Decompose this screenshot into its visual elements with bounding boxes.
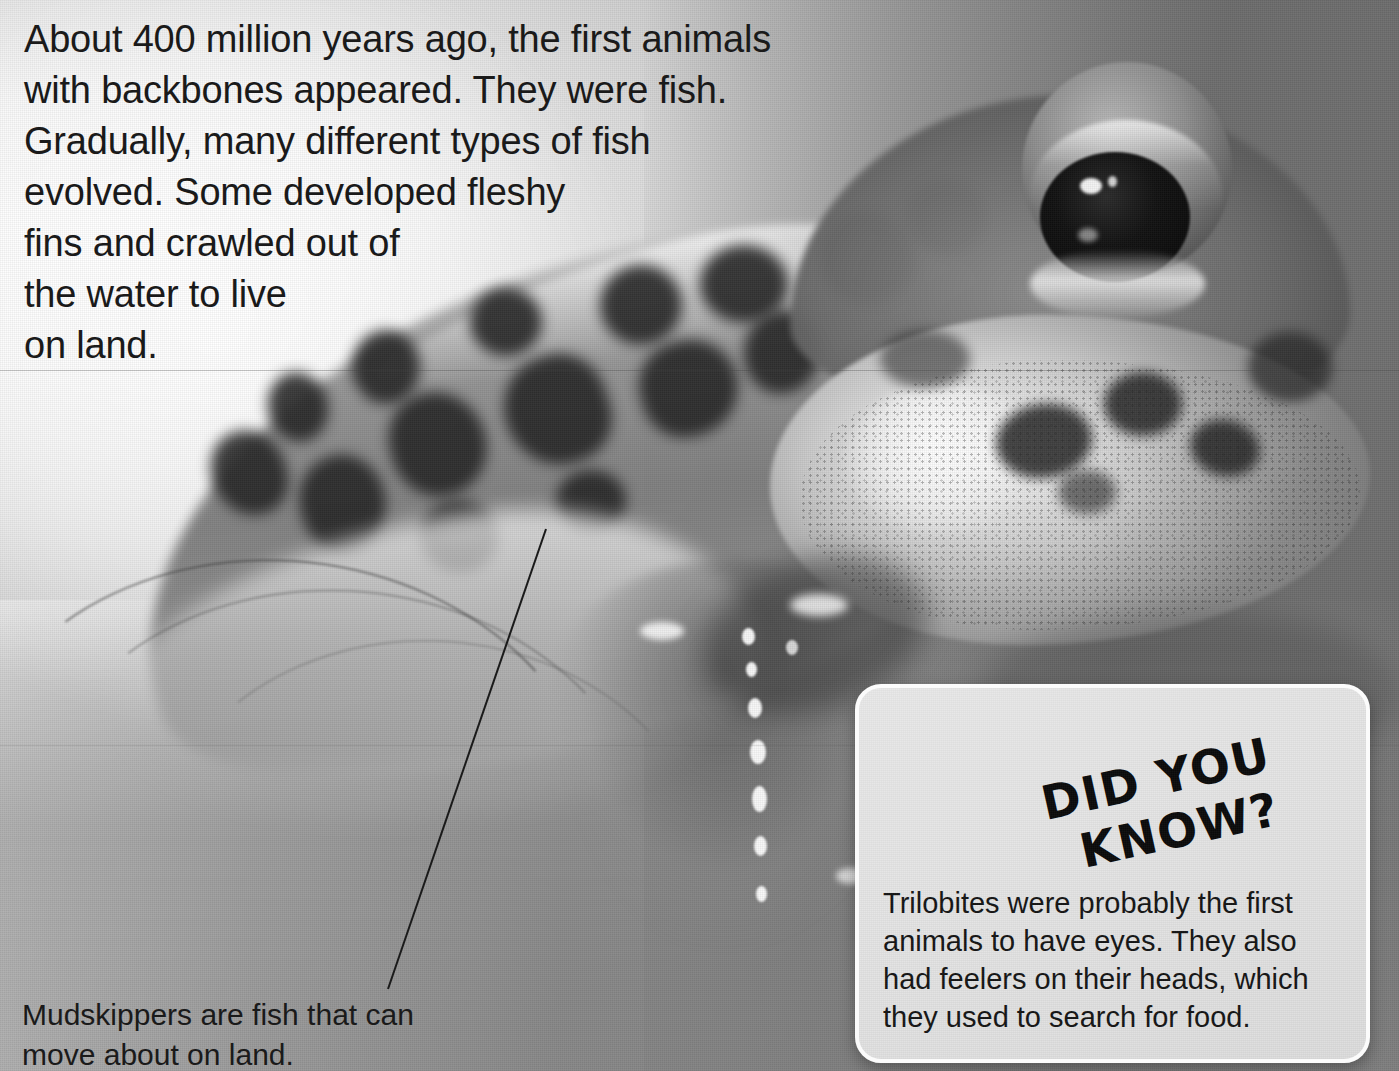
water-droplet (756, 886, 767, 902)
fish-head-blotch (880, 330, 970, 388)
water-droplet (754, 836, 767, 856)
water-droplet (750, 740, 766, 764)
water-droplet (790, 594, 848, 616)
fish-eye-highlight (1080, 178, 1102, 194)
photo-caption: Mudskippers are fish that can move about… (22, 995, 492, 1071)
water-droplet (748, 698, 762, 718)
water-droplet (640, 622, 684, 640)
fish-eye-lower-rim (1030, 250, 1205, 318)
water-droplet (752, 786, 767, 812)
fish-eye-highlight (1078, 228, 1098, 242)
water-droplet (742, 628, 755, 645)
water-droplet (786, 640, 798, 655)
fish-head-blotch (1248, 332, 1332, 402)
book-page: About 400 million years ago, the first a… (0, 0, 1399, 1071)
fish-eye-highlight (1108, 176, 1117, 187)
intro-paragraph: About 400 million years ago, the first a… (24, 14, 854, 371)
fish-head-blotch (1104, 372, 1182, 436)
did-you-know-body-text: Trilobites were probably the first anima… (883, 884, 1353, 1036)
did-you-know-card: DID YOU KNOW? Trilobites were probably t… (855, 684, 1370, 1063)
fish-head-blotch (1058, 470, 1116, 514)
water-droplet (746, 662, 757, 677)
